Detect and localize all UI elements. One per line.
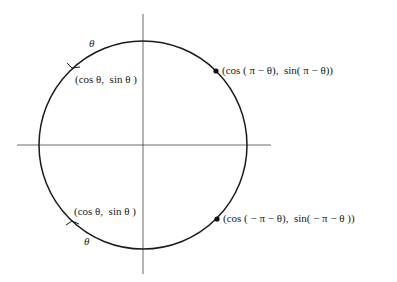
label-upper-left: (cos θ, sin θ ) — [75, 74, 137, 85]
theta-label-top: θ — [89, 38, 94, 49]
label-upper-right: (cos ( π − θ), sin( π − θ)) — [222, 65, 333, 76]
label-lower-right: (cos ( − π − θ), sin( − π − θ )) — [223, 213, 355, 224]
point-upper-right — [213, 68, 218, 73]
arrow-lower-icon — [66, 221, 79, 225]
label-lower-left: (cos θ, sin θ ) — [74, 206, 136, 217]
point-lower-right — [214, 216, 219, 221]
unit-circle-diagram — [0, 0, 397, 282]
theta-label-bottom: θ — [84, 236, 89, 247]
